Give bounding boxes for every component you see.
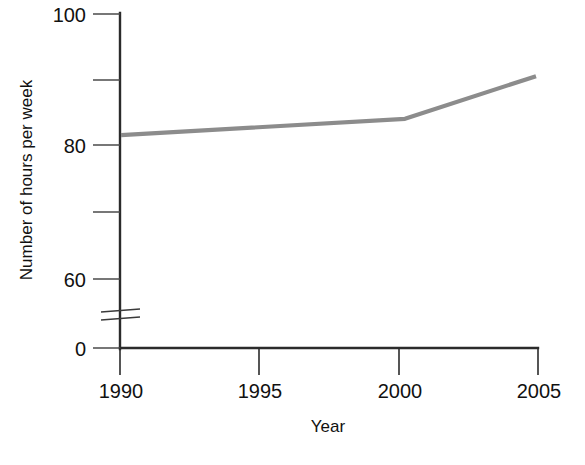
y-axis-title: Number of hours per week xyxy=(17,79,36,280)
data-series-line xyxy=(121,76,536,135)
y-tick-label-60: 60 xyxy=(64,269,86,291)
x-axis-title: Year xyxy=(311,417,346,436)
chart-canvas: 100 80 60 0 1990 1995 2000 2005 Year Num… xyxy=(0,0,585,465)
x-tick-label-1990: 1990 xyxy=(99,380,144,402)
x-tick-label-2005: 2005 xyxy=(517,380,562,402)
y-tick-label-80: 80 xyxy=(64,135,86,157)
y-tick-label-0: 0 xyxy=(75,338,86,360)
x-tick-label-2000: 2000 xyxy=(378,380,423,402)
y-tick-label-100: 100 xyxy=(53,4,86,26)
x-tick-label-1995: 1995 xyxy=(238,380,283,402)
line-chart: 100 80 60 0 1990 1995 2000 2005 Year Num… xyxy=(0,0,585,465)
